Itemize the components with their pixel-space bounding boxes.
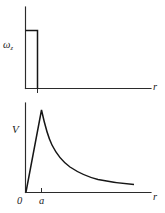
bottom-tick-label-a: a <box>39 196 44 207</box>
potential-panel <box>26 103 152 193</box>
top-y-axis-label: ωz <box>3 40 13 51</box>
figure-canvas <box>0 0 165 213</box>
top-x-axis-label: r <box>153 82 157 93</box>
physics-figure: ωz r V 0 a r <box>0 0 165 213</box>
bottom-x-axis-label: r <box>153 192 157 203</box>
charge-density-panel <box>26 7 152 93</box>
potential-curve <box>26 110 134 192</box>
charge-density-step-curve <box>26 31 38 89</box>
origin-label: 0 <box>17 196 22 207</box>
bottom-y-axis-label: V <box>12 124 19 135</box>
